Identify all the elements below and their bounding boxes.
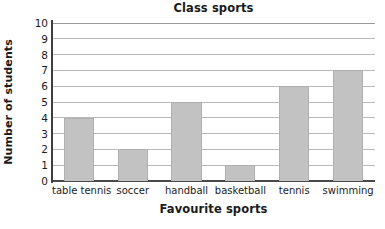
x-tick-label: handball — [160, 184, 214, 197]
bar-slot — [106, 23, 160, 181]
x-tick-label: tennis — [267, 184, 321, 197]
bar-slot — [160, 23, 214, 181]
y-tick-label: 9 — [18, 34, 48, 44]
x-axis-tick-labels: table tennissoccerhandballbasketballtenn… — [52, 184, 375, 200]
bar-slot — [267, 23, 321, 181]
x-tick-label: basketball — [214, 184, 268, 197]
bar-slot — [214, 23, 268, 181]
bar-series — [52, 23, 375, 181]
bar — [118, 149, 148, 181]
y-axis-line — [51, 20, 53, 183]
y-axis-title: Number of students — [2, 39, 15, 165]
y-tick-label: 2 — [18, 144, 48, 154]
y-tick-label: 5 — [18, 97, 48, 107]
x-tick-label: soccer — [106, 184, 160, 197]
y-axis-title-container: Number of students — [0, 23, 16, 181]
y-axis-tick-labels: 012345678910 — [18, 0, 48, 229]
y-tick-label: 0 — [18, 176, 48, 186]
bar — [225, 165, 255, 181]
y-tick-label: 10 — [18, 18, 48, 28]
bar-slot — [321, 23, 375, 181]
y-tick-label: 8 — [18, 50, 48, 60]
x-tick-label: table tennis — [52, 184, 106, 197]
chart-title: Class sports — [52, 1, 375, 15]
y-tick-label: 6 — [18, 81, 48, 91]
bar — [333, 70, 363, 181]
plot-area — [52, 23, 375, 181]
y-tick-label: 1 — [18, 160, 48, 170]
bar — [171, 102, 201, 181]
y-tick-label: 3 — [18, 129, 48, 139]
x-axis-title: Favourite sports — [52, 202, 375, 216]
bar — [64, 118, 94, 181]
bar — [279, 86, 309, 181]
x-tick-label: swimming — [321, 184, 375, 197]
bar-chart: Class sports Number of students 01234567… — [0, 0, 385, 229]
y-tick-label: 7 — [18, 65, 48, 75]
bar-slot — [52, 23, 106, 181]
y-tick-label: 4 — [18, 113, 48, 123]
